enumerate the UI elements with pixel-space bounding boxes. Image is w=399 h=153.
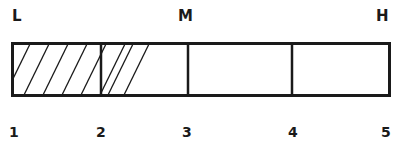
tick-label-1: 1 [9,125,19,139]
scale-outline [13,44,390,96]
tick-label-2: 2 [96,125,106,139]
hatch-pattern [0,44,165,95]
tick-label-5: 5 [381,125,391,139]
tick-label-4: 4 [288,125,298,139]
scale-bar [0,0,399,120]
tick-label-3: 3 [182,125,192,139]
